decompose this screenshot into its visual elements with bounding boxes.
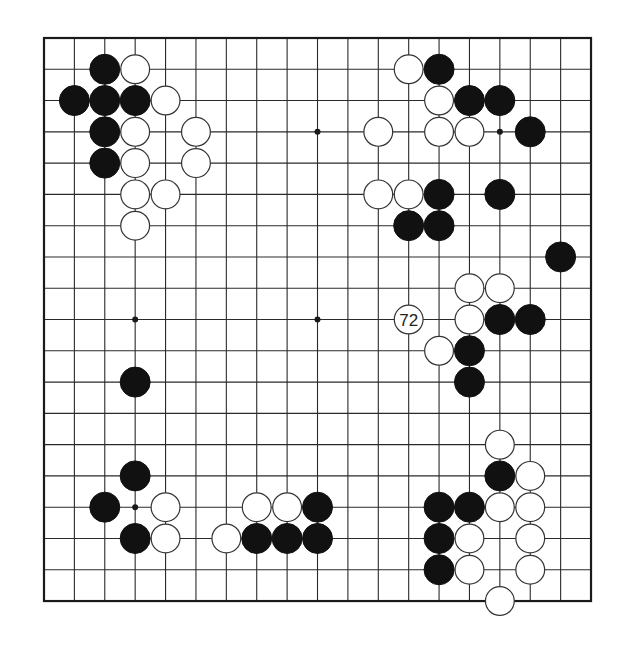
black-stone: [59, 86, 89, 116]
white-stone: [151, 180, 180, 209]
white-stone: [151, 86, 180, 115]
star-point: [132, 504, 138, 510]
white-stone: [425, 117, 454, 146]
move-number-label: 72: [399, 311, 418, 330]
black-stone: [424, 179, 454, 209]
white-stone: [455, 274, 484, 303]
black-stone: [424, 211, 454, 241]
black-stone: [424, 523, 454, 553]
white-stone: [364, 117, 393, 146]
black-stone: [303, 523, 333, 553]
black-stone: [485, 179, 515, 209]
white-stone: [364, 180, 393, 209]
black-stone: [454, 492, 484, 522]
white-stone: [394, 55, 423, 84]
white-stone: [485, 493, 514, 522]
go-board-diagram: 72: [0, 0, 635, 650]
white-stone: [151, 493, 180, 522]
white-stone: [121, 117, 150, 146]
black-stone: [424, 54, 454, 84]
black-stone: [485, 461, 515, 491]
black-stone: [120, 86, 150, 116]
white-stone: [242, 493, 271, 522]
white-stone: [455, 524, 484, 553]
black-stone: [120, 367, 150, 397]
black-stone: [90, 117, 120, 147]
white-stone: [151, 524, 180, 553]
white-stone: [485, 587, 514, 616]
white-stone: [121, 211, 150, 240]
labeled-stones-layer: 72: [394, 305, 423, 334]
star-point: [497, 129, 503, 135]
black-stone: [394, 211, 424, 241]
black-stone: [272, 523, 302, 553]
black-stone: [424, 555, 454, 585]
white-stone: [182, 149, 211, 178]
black-stone: [515, 305, 545, 335]
white-stone: [455, 305, 484, 334]
black-stone: [120, 461, 150, 491]
black-stone: [120, 523, 150, 553]
black-stone: [454, 367, 484, 397]
black-stone: [485, 86, 515, 116]
white-stone: [182, 117, 211, 146]
black-stone: [90, 54, 120, 84]
black-stone: [90, 492, 120, 522]
white-stone: [121, 149, 150, 178]
white-stone: [516, 462, 545, 491]
white-stone: [273, 493, 302, 522]
white-stone: [121, 180, 150, 209]
black-stone: [454, 336, 484, 366]
black-stone: [515, 117, 545, 147]
white-stone: [121, 55, 150, 84]
black-stone: [90, 86, 120, 116]
white-stone: [485, 274, 514, 303]
black-stone: [424, 492, 454, 522]
star-point: [132, 317, 138, 323]
white-stone: [394, 180, 423, 209]
black-stone: [303, 492, 333, 522]
white-stone: [455, 555, 484, 584]
white-stone: [516, 555, 545, 584]
black-stone: [90, 148, 120, 178]
white-stone: [516, 493, 545, 522]
white-stone: [425, 86, 454, 115]
star-point: [315, 317, 321, 323]
white-stone: [425, 336, 454, 365]
star-point: [315, 129, 321, 135]
black-stone: [546, 242, 576, 272]
white-stone: [516, 524, 545, 553]
go-board: 72: [0, 0, 635, 650]
black-stone: [454, 86, 484, 116]
black-stone: [242, 523, 272, 553]
white-stone: [212, 524, 241, 553]
white-stone: [455, 117, 484, 146]
white-stone: [485, 430, 514, 459]
black-stone: [485, 305, 515, 335]
